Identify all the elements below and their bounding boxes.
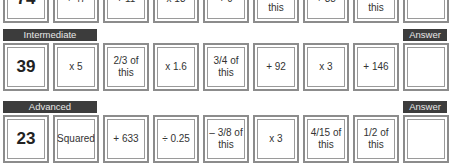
answer-box[interactable]	[403, 0, 449, 23]
step-box: x 1.6	[153, 43, 199, 91]
answer-box[interactable]	[403, 43, 449, 91]
step-box: Squared	[53, 115, 99, 163]
step-box: x 13	[153, 0, 199, 23]
step-box: ÷ 9	[203, 0, 249, 23]
step-box: + 146	[353, 43, 399, 91]
step-box: 2/3 of this	[103, 43, 149, 91]
start-number-box: 74	[3, 0, 49, 23]
step-box: x 3	[303, 43, 349, 91]
start-number-box: 23	[3, 115, 49, 163]
step-box: 1/2 of this	[353, 115, 399, 163]
step-box: + 38	[303, 0, 349, 23]
step-box: x 5	[53, 43, 99, 91]
advanced-header: Advanced	[3, 101, 97, 113]
step-box: + 47	[53, 0, 99, 23]
step-box: x 3	[253, 115, 299, 163]
step-box: – 3/8 of this	[203, 115, 249, 163]
start-number-box: 39	[3, 43, 49, 91]
step-box: + 92	[253, 43, 299, 91]
step-box: + 633	[103, 115, 149, 163]
step-box: this	[253, 0, 299, 23]
intermediate-header: Intermediate	[3, 29, 97, 41]
step-box: this	[353, 0, 399, 23]
answer-header: Answer	[403, 101, 447, 113]
answer-box[interactable]	[403, 115, 449, 163]
step-box: ÷ 11	[103, 0, 149, 23]
answer-header: Answer	[403, 29, 447, 41]
step-box: 3/4 of this	[203, 43, 249, 91]
step-box: 4/15 of this	[303, 115, 349, 163]
step-box: ÷ 0.25	[153, 115, 199, 163]
